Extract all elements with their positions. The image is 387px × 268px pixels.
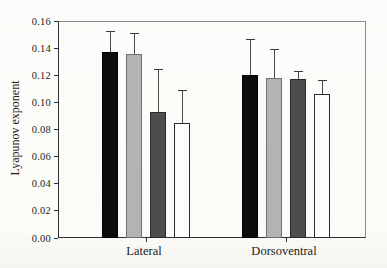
y-axis-tick-label: 0.04	[17, 178, 51, 189]
y-axis-tick	[54, 48, 58, 49]
y-axis-tick-label: 0.00	[17, 233, 51, 244]
error-bar-line	[274, 49, 275, 77]
bar-lateral-light-gray-bar-series	[126, 54, 142, 238]
bar-lateral-black-bar-series	[102, 52, 118, 238]
error-bar-line	[298, 71, 299, 79]
error-bar-cap	[270, 49, 279, 50]
category-label-dorsoventral: Dorsoventral	[251, 244, 316, 259]
y-axis-tick-label: 0.02	[17, 205, 51, 216]
y-axis-tick-label: 0.16	[17, 16, 51, 27]
error-bar-line	[134, 33, 135, 53]
y-axis-tick-label: 0.10	[17, 97, 51, 108]
y-axis-tick	[54, 183, 58, 184]
error-bar-line	[110, 32, 111, 52]
bar-lateral-white-bar-series	[174, 123, 190, 238]
y-axis-tick	[54, 156, 58, 157]
bar-dorsoventral-black-bar-series	[242, 75, 258, 238]
bar-dorsoventral-light-gray-bar-series	[266, 78, 282, 238]
y-axis-tick	[54, 129, 58, 130]
error-bar-line	[182, 90, 183, 123]
x-axis-tick	[146, 238, 147, 242]
y-axis-tick	[54, 75, 58, 76]
y-axis-tick	[54, 21, 58, 22]
y-axis-tick	[54, 102, 58, 103]
error-bar-cap	[106, 31, 115, 32]
y-axis-tick-label: 0.12	[17, 70, 51, 81]
y-axis-tick	[54, 238, 58, 239]
bar-lateral-dark-gray-bar-series	[150, 112, 166, 238]
error-bar-line	[158, 70, 159, 112]
lyapunov-exponent-bar-chart: Lyapunov exponent 0.000.020.040.060.080.…	[0, 0, 387, 268]
bar-dorsoventral-white-bar-series	[314, 94, 330, 238]
error-bar-cap	[246, 39, 255, 40]
error-bar-cap	[154, 69, 163, 70]
bar-dorsoventral-dark-gray-bar-series	[290, 79, 306, 238]
x-axis-tick	[286, 238, 287, 242]
y-axis-tick-label: 0.06	[17, 151, 51, 162]
category-label-lateral: Lateral	[126, 244, 161, 259]
error-bar-line	[322, 81, 323, 95]
error-bar-cap	[294, 71, 303, 72]
error-bar-cap	[130, 33, 139, 34]
error-bar-line	[250, 40, 251, 75]
y-axis-tick	[54, 210, 58, 211]
y-axis-tick-label: 0.14	[17, 43, 51, 54]
error-bar-cap	[318, 80, 327, 81]
error-bar-cap	[178, 90, 187, 91]
y-axis-tick-label: 0.08	[17, 124, 51, 135]
